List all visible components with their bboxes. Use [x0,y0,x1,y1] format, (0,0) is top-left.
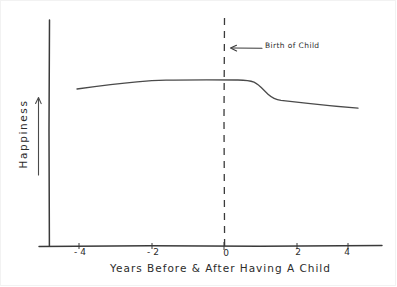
hand-drawn-chart [0,0,397,287]
happiness-curve [77,80,358,108]
chart-page: - 4 - 2 0 2 4 Years Before & After Havin… [0,0,397,287]
y-axis-line [49,20,50,246]
x-tick-label-zero: 0 [216,248,236,258]
birth-of-child-annotation-label: Birth of Child [265,41,320,50]
x-tick-label-minus4: - 4 [70,247,90,257]
x-axis-line [39,246,382,247]
y-axis-title: Happiness [17,98,29,170]
x-tick-label-4: 4 [337,247,357,257]
x-tick-label-minus2: - 2 [143,247,163,257]
x-tick-label-2: 2 [288,247,308,257]
x-axis-title: Years Before & After Having A Child [110,262,331,274]
birth-dashed-line [224,18,225,246]
